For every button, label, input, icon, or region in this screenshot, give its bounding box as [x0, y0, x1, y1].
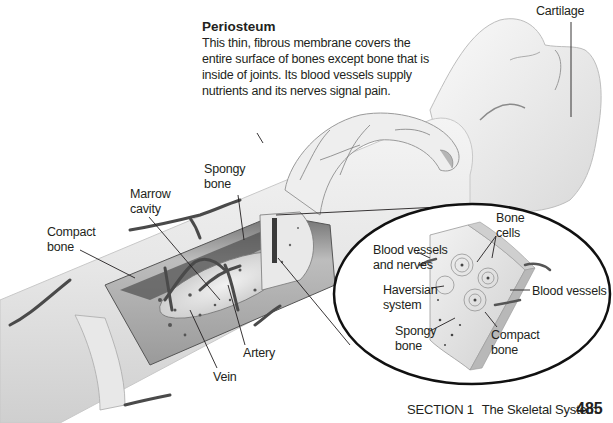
inset-label-compact-bone: Compact bone [491, 328, 540, 358]
label-cartilage: Cartilage [536, 4, 584, 19]
inset-label-blood-vessels-nerves: Blood vessels and nerves [373, 243, 448, 273]
inset-label-spongy-line1: Spongy [395, 324, 436, 339]
page-number: 485 [576, 400, 603, 418]
label-vein: Vein [213, 370, 237, 385]
inset-label-compact-line2: bone [491, 343, 540, 358]
inset-label-blood-vessels: Blood vessels [532, 284, 607, 299]
bone-structure-diagram: Periosteum This thin, fibrous membrane c… [0, 0, 613, 423]
label-marrow-cavity: Marrow cavity [130, 187, 170, 217]
page-footer: SECTION 1The Skeletal System [407, 402, 597, 417]
periosteum-description: This thin, fibrous membrane covers the e… [202, 35, 442, 99]
inset-label-spongy-bone: Spongy bone [395, 324, 436, 354]
inset-label-haversian-line2: system [383, 298, 437, 313]
label-marrow-cavity-line2: cavity [130, 202, 170, 217]
periosteum-title: Periosteum [202, 19, 276, 34]
label-spongy-bone-line2: bone [204, 177, 245, 192]
label-spongy-bone-line1: Spongy [204, 162, 245, 177]
footer-section: SECTION 1 [407, 402, 474, 417]
inset-label-haversian-system: Haversian system [383, 283, 437, 313]
label-artery: Artery [243, 346, 275, 361]
label-spongy-bone: Spongy bone [204, 162, 245, 192]
label-compact-bone-line1: Compact [47, 225, 96, 240]
label-marrow-cavity-line1: Marrow [130, 187, 170, 202]
label-compact-bone-line2: bone [47, 240, 96, 255]
label-compact-bone: Compact bone [47, 225, 96, 255]
inset-label-bvn-line1: Blood vessels [373, 243, 448, 258]
inset-label-bone-cells: Bone cells [496, 211, 524, 241]
inset-label-bone-cells-line1: Bone [496, 211, 524, 226]
inset-label-bone-cells-line2: cells [496, 226, 524, 241]
inset-label-compact-line1: Compact [491, 328, 540, 343]
inset-label-haversian-line1: Haversian [383, 283, 437, 298]
inset-label-spongy-line2: bone [395, 339, 436, 354]
inset-label-bvn-line2: and nerves [373, 258, 448, 273]
